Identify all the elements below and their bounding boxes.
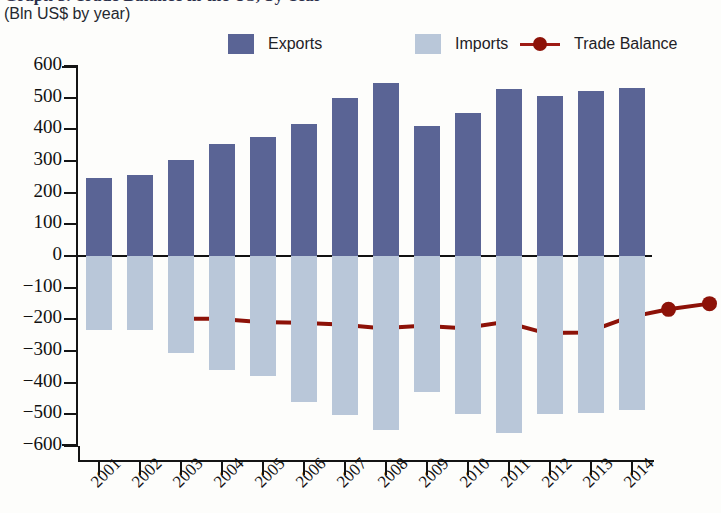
y-axis-tick-label: 600 bbox=[2, 53, 62, 75]
y-axis-tick-label: 400 bbox=[2, 116, 62, 138]
legend-item-trade-balance[interactable]: Trade Balance bbox=[520, 32, 677, 56]
bar-exports-2012 bbox=[537, 96, 563, 256]
y-axis-tick bbox=[64, 318, 78, 320]
bar-exports-2004 bbox=[209, 144, 235, 256]
bar-imports-2013 bbox=[578, 256, 604, 413]
y-axis-tick bbox=[64, 128, 78, 130]
y-axis-tick-label: −500 bbox=[2, 401, 62, 423]
y-axis-tick bbox=[64, 287, 78, 289]
y-axis-tick-label: 0 bbox=[2, 243, 62, 265]
y-axis-tick-label: −400 bbox=[2, 370, 62, 392]
bar-exports-2013 bbox=[578, 91, 604, 256]
bar-imports-2006 bbox=[291, 256, 317, 402]
y-axis-tick-label: 200 bbox=[2, 180, 62, 202]
bar-exports-2001 bbox=[86, 178, 112, 256]
legend-label: Trade Balance bbox=[574, 35, 677, 53]
bar-imports-2012 bbox=[537, 256, 563, 414]
y-axis-tick bbox=[64, 65, 78, 67]
bar-imports-2007 bbox=[332, 256, 358, 415]
bar-imports-2014 bbox=[619, 256, 645, 410]
bar-imports-2011 bbox=[496, 256, 522, 433]
x-axis-left-cap bbox=[78, 446, 80, 462]
bar-exports-2006 bbox=[291, 124, 317, 256]
y-axis-tick bbox=[64, 160, 78, 162]
bar-imports-2009 bbox=[414, 256, 440, 392]
y-axis-tick bbox=[64, 350, 78, 352]
bar-exports-2010 bbox=[455, 113, 481, 256]
y-axis-tick-label: −200 bbox=[2, 306, 62, 328]
bar-exports-2011 bbox=[496, 89, 522, 256]
legend-label: Imports bbox=[455, 35, 508, 53]
bar-exports-2002 bbox=[127, 175, 153, 256]
y-axis-tick bbox=[64, 97, 78, 99]
trade-balance-point-2013 bbox=[661, 302, 676, 317]
bar-exports-2008 bbox=[373, 83, 399, 256]
y-axis-tick bbox=[64, 413, 78, 415]
y-axis-tick bbox=[64, 192, 78, 194]
y-axis-tick bbox=[64, 223, 78, 225]
y-axis-tick-label: 100 bbox=[2, 211, 62, 233]
line-with-dot-marker bbox=[520, 34, 560, 54]
y-axis-tick-label: −300 bbox=[2, 338, 62, 360]
chart-legend: ExportsImportsTrade Balance bbox=[0, 32, 660, 58]
bar-exports-2007 bbox=[332, 98, 358, 256]
y-axis-tick-label: 500 bbox=[2, 85, 62, 107]
square-swatch bbox=[228, 34, 254, 54]
bar-exports-2009 bbox=[414, 126, 440, 256]
bar-imports-2002 bbox=[127, 256, 153, 330]
y-axis-tick-label: 300 bbox=[2, 148, 62, 170]
bar-imports-2008 bbox=[373, 256, 399, 430]
y-axis-tick bbox=[64, 255, 78, 257]
legend-item-exports[interactable]: Exports bbox=[228, 32, 322, 56]
plot-area bbox=[78, 66, 652, 446]
bar-exports-2014 bbox=[619, 88, 645, 256]
bar-imports-2005 bbox=[250, 256, 276, 376]
y-axis-tick bbox=[64, 382, 78, 384]
bar-imports-2004 bbox=[209, 256, 235, 370]
y-axis-tick-label: −100 bbox=[2, 275, 62, 297]
bar-imports-2010 bbox=[455, 256, 481, 414]
square-swatch bbox=[415, 34, 441, 54]
legend-item-imports[interactable]: Imports bbox=[415, 32, 508, 56]
bar-imports-2001 bbox=[86, 256, 112, 330]
y-axis-labels: 6005004003002001000−100−200−300−400−500−… bbox=[0, 0, 62, 513]
bar-exports-2003 bbox=[168, 160, 194, 256]
bar-exports-2005 bbox=[250, 137, 276, 256]
y-axis-tick bbox=[64, 445, 78, 447]
legend-label: Exports bbox=[268, 35, 322, 53]
trade-balance-point-2014 bbox=[702, 296, 717, 311]
bar-imports-2003 bbox=[168, 256, 194, 353]
y-axis-tick-label: −600 bbox=[2, 433, 62, 455]
